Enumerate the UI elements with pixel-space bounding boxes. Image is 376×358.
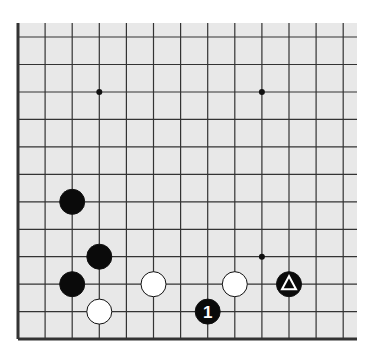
black-stone[interactable] xyxy=(60,189,85,214)
white-stone[interactable] xyxy=(141,272,166,297)
star-point xyxy=(259,89,265,95)
black-stone[interactable] xyxy=(87,244,112,269)
white-stone[interactable] xyxy=(222,272,247,297)
black-stone[interactable] xyxy=(60,272,85,297)
white-stone[interactable] xyxy=(87,299,112,324)
star-point xyxy=(259,254,265,260)
move-number-label: 1 xyxy=(203,303,212,322)
star-point xyxy=(96,89,102,95)
go-board-grid[interactable]: 1 xyxy=(0,0,376,358)
